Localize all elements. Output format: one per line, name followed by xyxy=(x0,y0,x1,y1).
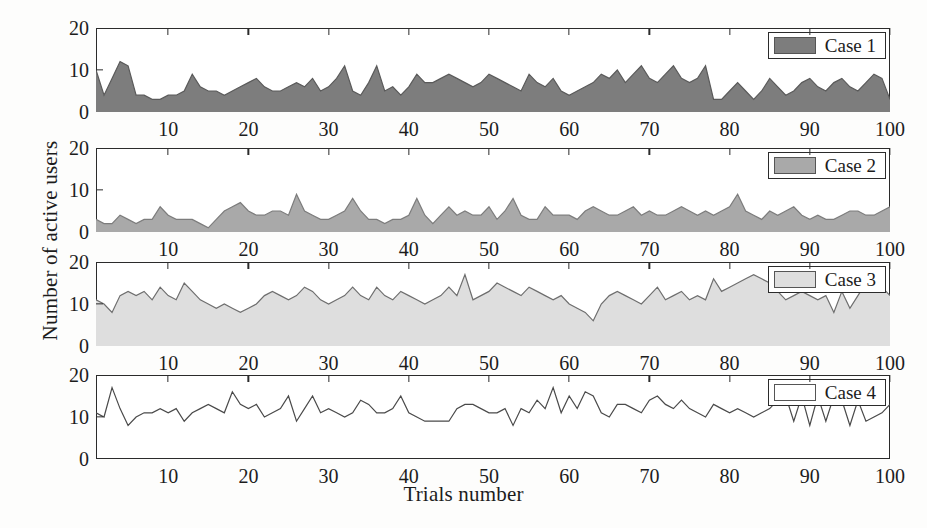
legend-swatch-case-3 xyxy=(774,271,816,288)
x-tick-label: 100 xyxy=(875,239,905,259)
x-tick-mark xyxy=(889,262,890,269)
legend-label-case-3: Case 3 xyxy=(825,270,876,289)
x-tick-mark xyxy=(328,148,329,155)
legend-label-case-4: Case 4 xyxy=(825,383,876,402)
legend-case-2[interactable]: Case 2 xyxy=(768,152,886,179)
x-tick-label: 40 xyxy=(399,466,419,486)
x-tick-mark xyxy=(729,375,730,382)
y-tick-label: 0 xyxy=(79,449,89,469)
x-tick-label: 100 xyxy=(875,119,905,139)
x-tick-label: 20 xyxy=(238,239,258,259)
x-tick-label: 20 xyxy=(238,466,258,486)
x-tick-label: 20 xyxy=(238,353,258,373)
x-tick-mark xyxy=(889,148,890,155)
x-tick-label: 30 xyxy=(319,119,339,139)
x-tick-label: 60 xyxy=(559,466,579,486)
y-tick-label: 10 xyxy=(69,407,89,427)
y-tick-label: 10 xyxy=(69,180,89,200)
legend-case-4[interactable]: Case 4 xyxy=(768,379,886,406)
y-tick-label: 20 xyxy=(69,365,89,385)
figure-container: Number of active users Trials number Cas… xyxy=(0,0,927,528)
x-tick-label: 50 xyxy=(479,119,499,139)
panel-case-1: Case 1 01020102030405060708090100 xyxy=(96,28,890,112)
y-tick-label: 20 xyxy=(69,252,89,272)
x-tick-mark xyxy=(649,148,650,155)
x-tick-mark xyxy=(168,148,169,155)
x-tick-mark xyxy=(488,28,489,35)
x-tick-label: 40 xyxy=(399,239,419,259)
legend-label-case-1: Case 1 xyxy=(825,36,876,55)
x-tick-mark xyxy=(408,148,409,155)
x-tick-label: 50 xyxy=(479,239,499,259)
x-tick-mark xyxy=(408,262,409,269)
legend-swatch-case-4 xyxy=(774,384,816,401)
x-tick-mark xyxy=(488,148,489,155)
y-tick-mark xyxy=(96,189,103,190)
x-tick-label: 90 xyxy=(800,119,820,139)
x-tick-mark xyxy=(328,28,329,35)
x-tick-mark xyxy=(729,28,730,35)
x-tick-mark xyxy=(809,148,810,155)
x-tick-mark xyxy=(168,28,169,35)
x-tick-mark xyxy=(649,375,650,382)
x-tick-mark xyxy=(649,28,650,35)
y-tick-label: 20 xyxy=(69,18,89,38)
x-tick-mark xyxy=(328,262,329,269)
legend-label-case-2: Case 2 xyxy=(825,156,876,175)
legend-case-1[interactable]: Case 1 xyxy=(768,32,886,59)
x-tick-mark xyxy=(248,148,249,155)
x-tick-mark xyxy=(729,262,730,269)
x-tick-label: 40 xyxy=(399,119,419,139)
x-tick-label: 90 xyxy=(800,353,820,373)
x-tick-mark xyxy=(809,262,810,269)
panel-case-2: Case 2 01020102030405060708090100 xyxy=(96,148,890,232)
y-tick-label: 0 xyxy=(79,102,89,122)
x-tick-mark xyxy=(889,375,890,382)
x-tick-mark xyxy=(408,28,409,35)
x-tick-label: 80 xyxy=(720,119,740,139)
x-tick-mark xyxy=(809,28,810,35)
y-tick-label: 0 xyxy=(79,222,89,242)
x-tick-mark xyxy=(408,375,409,382)
y-tick-label: 10 xyxy=(69,60,89,80)
legend-swatch-case-1 xyxy=(774,37,816,54)
x-tick-label: 70 xyxy=(639,119,659,139)
x-tick-mark xyxy=(248,262,249,269)
x-tick-mark xyxy=(168,262,169,269)
legend-case-3[interactable]: Case 3 xyxy=(768,266,886,293)
y-tick-label: 10 xyxy=(69,294,89,314)
x-tick-label: 80 xyxy=(720,466,740,486)
x-tick-mark xyxy=(569,28,570,35)
x-tick-label: 100 xyxy=(875,353,905,373)
legend-swatch-case-2 xyxy=(774,157,816,174)
x-tick-mark xyxy=(488,262,489,269)
x-tick-mark xyxy=(328,375,329,382)
x-tick-label: 50 xyxy=(479,353,499,373)
x-tick-label: 90 xyxy=(800,466,820,486)
x-tick-mark xyxy=(248,28,249,35)
x-tick-label: 30 xyxy=(319,239,339,259)
y-axis-label: Number of active users xyxy=(38,101,63,381)
x-tick-label: 30 xyxy=(319,353,339,373)
x-tick-label: 80 xyxy=(720,353,740,373)
x-tick-mark xyxy=(809,375,810,382)
x-tick-label: 60 xyxy=(559,353,579,373)
x-tick-mark xyxy=(168,375,169,382)
x-tick-label: 70 xyxy=(639,353,659,373)
x-tick-label: 30 xyxy=(319,466,339,486)
x-tick-label: 10 xyxy=(158,353,178,373)
x-tick-mark xyxy=(569,375,570,382)
x-tick-label: 70 xyxy=(639,466,659,486)
y-tick-mark xyxy=(96,416,103,417)
x-tick-label: 40 xyxy=(399,353,419,373)
y-tick-mark xyxy=(96,303,103,304)
x-tick-mark xyxy=(649,262,650,269)
x-tick-label: 80 xyxy=(720,239,740,259)
x-tick-label: 10 xyxy=(158,239,178,259)
x-tick-label: 90 xyxy=(800,239,820,259)
x-axis-label: Trials number xyxy=(0,482,927,507)
x-tick-label: 60 xyxy=(559,239,579,259)
x-tick-label: 60 xyxy=(559,119,579,139)
x-tick-mark xyxy=(488,375,489,382)
panel-case-4: Case 4 01020102030405060708090100 xyxy=(96,375,890,459)
